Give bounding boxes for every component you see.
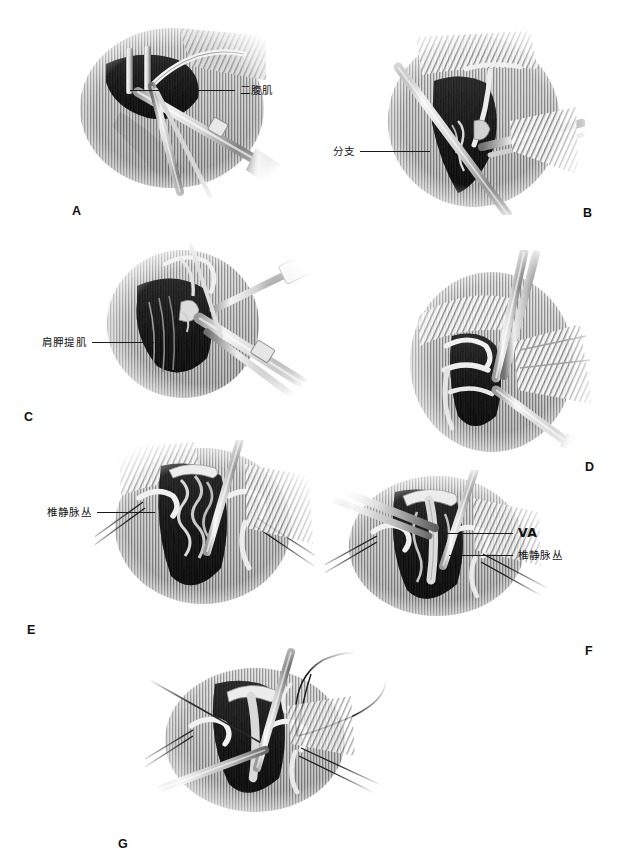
panel-C-illustration — [95, 240, 320, 410]
panel-B-illustration — [370, 25, 585, 215]
panel-A-illustration — [60, 20, 290, 200]
panel-D — [400, 250, 595, 465]
panel-G-illustration — [145, 640, 390, 820]
panel-B — [370, 25, 585, 215]
panel-letter-B: B — [583, 207, 592, 220]
panel-E — [95, 440, 315, 615]
panel-G — [145, 640, 390, 820]
panel-letter-E: E — [27, 624, 36, 637]
label-levator-scapulae: 肩胛提肌 — [42, 337, 87, 348]
panel-C — [95, 240, 320, 410]
panel-F — [325, 470, 550, 625]
label-vertebral-venous-plexus: 椎静脉丛 — [47, 507, 92, 518]
panel-F-illustration — [325, 470, 550, 625]
panel-letter-C: C — [24, 411, 33, 424]
label-branch: 分支 — [333, 146, 355, 157]
panel-A — [60, 20, 290, 200]
panel-letter-A: A — [72, 205, 81, 218]
surgical-figure: 二腹肌 分支 肩胛提肌 椎静脉丛 VA 椎静脉丛 A B C D E F G — [0, 0, 621, 865]
panel-E-illustration — [95, 440, 315, 615]
panel-letter-F: F — [585, 645, 593, 658]
panel-letter-D: D — [585, 461, 594, 474]
panel-letter-G: G — [118, 838, 128, 851]
panel-D-illustration — [400, 250, 595, 465]
